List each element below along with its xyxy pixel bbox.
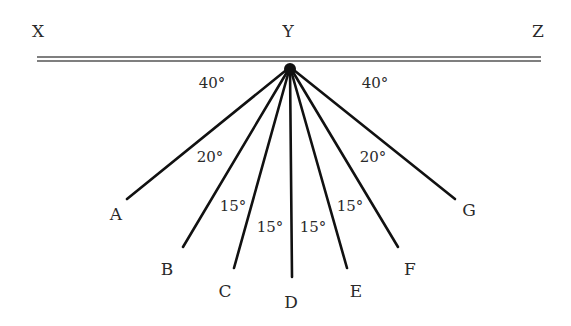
angle-label: 15° (257, 218, 284, 236)
angle-label: 40° (362, 74, 389, 92)
angle-label: 15° (220, 197, 247, 215)
surface-double-line (37, 57, 541, 61)
angle-label: 15° (337, 197, 364, 215)
ray-label-f: F (404, 259, 416, 279)
diagram-canvas: XYZABCDEFG 40°40°20°20°15°15°15°15° (0, 0, 571, 326)
ray-label-b: B (161, 259, 174, 279)
surface-label-x: X (32, 21, 45, 41)
ray-c (234, 67, 290, 268)
surface-label-z: Z (532, 21, 544, 41)
apex-dot (284, 63, 296, 75)
angle-label: 20° (197, 148, 224, 166)
ray-e (290, 67, 347, 268)
angle-label: 15° (300, 218, 327, 236)
angle-diagram: XYZABCDEFG 40°40°20°20°15°15°15°15° (0, 0, 571, 326)
ray-label-e: E (350, 281, 362, 301)
ray-label-c: C (218, 281, 231, 301)
ray-label-g: G (462, 200, 476, 220)
ray-label-a: A (109, 204, 123, 224)
surface-label-y: Y (281, 21, 294, 41)
ray-label-d: D (284, 292, 298, 312)
ray-d (290, 67, 292, 277)
angle-label: 20° (360, 148, 387, 166)
apex-point (284, 63, 296, 75)
rays (127, 67, 455, 277)
angle-label: 40° (199, 74, 226, 92)
